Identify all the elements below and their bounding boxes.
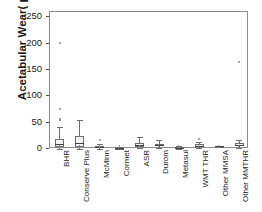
y-tick-mark [46,148,49,149]
whisker-cap-upper [57,127,63,128]
y-tick-label: 200 [16,38,42,48]
median-line [215,146,224,147]
y-tick-label: 150 [16,64,42,74]
whisker-cap-upper [236,140,242,141]
median-line [55,144,64,145]
outlier-point [59,108,61,110]
x-tick-mark [139,145,140,148]
median-line [155,145,164,146]
x-tick-mark [198,145,199,148]
box-iqr [55,139,64,147]
outlier-point [59,118,61,120]
x-tick-label: Metasul [181,150,190,178]
y-tick-label: 250 [16,11,42,21]
y-tick-mark [46,16,49,17]
x-tick-mark [178,145,179,148]
x-tick-label: WMT THR [201,150,210,187]
x-tick-mark [238,145,239,148]
whisker-cap-upper [156,140,162,141]
y-tick-mark [46,69,49,70]
x-tick-label: Durom [161,150,170,174]
plot-area [50,12,247,147]
boxplot-figure: Acetabular Wear( μm/y) 050100150200250 B… [0,0,262,212]
x-tick-label: BHR [62,150,71,167]
median-line [195,146,204,147]
median-line [75,143,84,144]
x-tick-mark [119,145,120,148]
outlier-point [238,61,240,63]
y-tick-label: 0 [16,143,42,153]
outlier-point [99,139,101,141]
x-tick-mark [218,145,219,148]
x-tick-label: McMinn [102,150,111,178]
x-tick-mark [59,145,60,148]
median-line [235,145,244,146]
y-axis-tick-labels: 050100150200250 [12,0,42,212]
x-tick-label: Other MMTHR [241,150,250,202]
outlier-point [59,42,61,44]
y-tick-label: 100 [16,90,42,100]
outlier-point [198,138,200,140]
x-tick-label: Cormet [122,150,131,176]
y-tick-mark [46,95,49,96]
x-tick-mark [158,145,159,148]
whisker-cap-upper [137,137,143,138]
whisker-cap-upper [97,144,103,145]
whisker-upper [59,127,60,139]
x-tick-label: Other MMSA [221,150,230,196]
x-tick-mark [79,145,80,148]
x-axis-tick-labels: BHRConserve PlusMcMinnCormetASRDuromMeta… [49,148,248,212]
box-iqr [75,136,84,147]
whisker-upper [79,120,80,136]
x-tick-label: Conserve Plus [82,150,91,202]
y-tick-mark [46,43,49,44]
median-line [135,145,144,146]
x-tick-mark [99,145,100,148]
x-tick-label: ASR [142,150,151,166]
whisker-cap-upper [77,120,83,121]
plot-frame [49,11,248,148]
y-tick-mark [46,122,49,123]
y-tick-label: 50 [16,117,42,127]
whisker-cap-upper [196,142,202,143]
